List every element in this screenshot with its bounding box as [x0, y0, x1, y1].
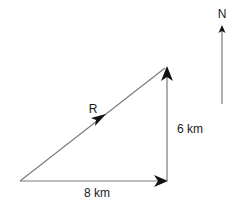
vector-diagram: N 8 km 6 km R — [0, 0, 235, 212]
vector-east: 8 km — [20, 175, 168, 200]
resultant-vector-line — [20, 68, 165, 181]
north-indicator: N — [218, 7, 227, 104]
north-label: N — [218, 7, 227, 21]
resultant-label: R — [89, 102, 98, 116]
vertical-leg-label: 6 km — [177, 122, 203, 136]
horizontal-leg-label: 8 km — [84, 186, 110, 200]
vector-resultant: R — [20, 68, 165, 181]
vector-north: 6 km — [161, 66, 203, 181]
